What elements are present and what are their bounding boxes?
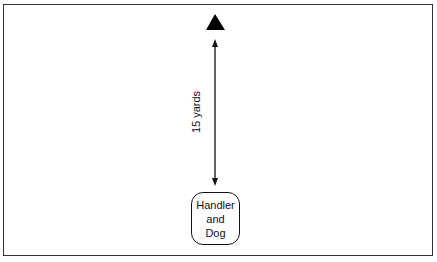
handler-and-dog-box: Handler and Dog bbox=[191, 192, 240, 245]
arrow-head-up-icon bbox=[212, 39, 218, 47]
distance-label: 15 yards bbox=[190, 91, 202, 133]
arrow-head-down-icon bbox=[212, 178, 218, 186]
box-line-2: and bbox=[206, 212, 224, 226]
target-triangle-icon bbox=[206, 14, 225, 30]
box-line-1: Handler bbox=[196, 198, 235, 212]
box-line-3: Dog bbox=[205, 226, 225, 240]
